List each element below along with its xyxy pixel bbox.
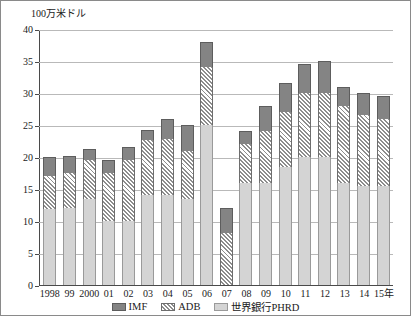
bar-segment-adb	[83, 160, 96, 198]
y-axis-unit-label: 100万米ドル	[31, 5, 86, 20]
chart-legend: IMF ADB 世界銀行PHRD	[1, 299, 410, 314]
bar-segment-imf	[239, 131, 252, 144]
bar-group[interactable]	[161, 30, 174, 285]
y-tick-mark	[35, 190, 39, 191]
bar-segment-世界銀行phrd	[357, 186, 370, 285]
bar-group[interactable]	[83, 30, 96, 285]
bar-group[interactable]	[122, 30, 135, 285]
y-tick-mark	[35, 286, 39, 287]
y-tick-label: 5	[28, 249, 33, 259]
y-tick-mark	[35, 254, 39, 255]
bar-segment-adb	[161, 139, 174, 195]
bar-group[interactable]	[298, 30, 311, 285]
legend-label-imf: IMF	[129, 301, 148, 312]
bar-segment-imf	[141, 130, 154, 140]
bar-segment-世界銀行phrd	[181, 199, 194, 285]
bar-segment-世界銀行phrd	[259, 183, 272, 285]
bar-segment-世界銀行phrd	[318, 157, 331, 285]
bar-segment-世界銀行phrd	[43, 209, 56, 285]
bar-group[interactable]	[102, 30, 115, 285]
bar-group[interactable]	[279, 30, 292, 285]
bar-segment-adb	[279, 112, 292, 166]
bar-segment-adb	[259, 131, 272, 182]
bar-segment-世界銀行phrd	[102, 221, 115, 285]
bar-group[interactable]	[318, 30, 331, 285]
bar-segment-imf	[161, 119, 174, 139]
bar-segment-世界銀行phrd	[200, 125, 213, 285]
bar-segment-adb	[239, 144, 252, 182]
bar-segment-世界銀行phrd	[298, 157, 311, 285]
x-axis-line	[39, 285, 393, 286]
bar-segment-世界銀行phrd	[63, 208, 76, 285]
bar-segment-imf	[337, 87, 350, 106]
y-tick-mark	[35, 94, 39, 95]
bar-segment-世界銀行phrd	[337, 183, 350, 285]
bar-segment-adb	[122, 160, 135, 221]
bar-segment-adb	[102, 173, 115, 221]
plot-area: 0510152025303540	[39, 30, 393, 286]
chart-frame: 100万米ドル 0510152025303540 199899200001020…	[0, 0, 411, 316]
y-tick-label: 15	[23, 185, 33, 195]
bar-segment-imf	[200, 42, 213, 68]
bar-segment-世界銀行phrd	[239, 183, 252, 285]
legend-item-phrd: 世界銀行PHRD	[214, 299, 299, 314]
y-tick-label: 10	[23, 217, 33, 227]
legend-item-adb: ADB	[161, 301, 200, 312]
bar-segment-adb	[141, 140, 154, 196]
bar-segment-adb	[337, 106, 350, 183]
bar-segment-imf	[63, 156, 76, 173]
bar-group[interactable]	[357, 30, 370, 285]
bar-group[interactable]	[200, 30, 213, 285]
legend-item-imf: IMF	[112, 301, 148, 312]
bar-segment-imf	[43, 157, 56, 176]
y-tick-label: 35	[23, 57, 33, 67]
bar-segment-adb	[181, 151, 194, 199]
bar-segment-adb	[377, 119, 390, 186]
bar-series-container	[40, 30, 393, 285]
y-tick-mark	[35, 222, 39, 223]
bar-segment-世界銀行phrd	[141, 195, 154, 285]
y-tick-label: 25	[23, 121, 33, 131]
y-tick-mark	[35, 62, 39, 63]
bar-segment-imf	[377, 96, 390, 118]
bar-segment-imf	[220, 208, 233, 232]
bar-segment-adb	[318, 93, 331, 157]
bar-segment-世界銀行phrd	[377, 186, 390, 285]
bar-segment-imf	[83, 149, 96, 161]
bar-segment-adb	[357, 115, 370, 185]
bar-segment-imf	[102, 160, 115, 173]
bar-segment-adb	[200, 67, 213, 125]
y-tick-label: 40	[23, 25, 33, 35]
bar-segment-imf	[279, 83, 292, 112]
y-tick-label: 30	[23, 89, 33, 99]
bar-segment-imf	[357, 93, 370, 115]
y-tick-label: 0	[28, 281, 33, 291]
bar-group[interactable]	[377, 30, 390, 285]
bar-group[interactable]	[63, 30, 76, 285]
bar-group[interactable]	[337, 30, 350, 285]
bar-group[interactable]	[141, 30, 154, 285]
y-tick-mark	[35, 30, 39, 31]
bar-group[interactable]	[43, 30, 56, 285]
bar-segment-adb	[63, 173, 76, 208]
bar-segment-世界銀行phrd	[279, 167, 292, 285]
legend-label-adb: ADB	[178, 301, 200, 312]
imf-swatch-icon	[112, 303, 126, 311]
y-tick-label: 20	[23, 153, 33, 163]
bar-segment-imf	[181, 125, 194, 151]
bar-segment-imf	[122, 147, 135, 160]
y-tick-mark	[35, 158, 39, 159]
bar-segment-imf	[259, 106, 272, 132]
bar-group[interactable]	[220, 30, 233, 285]
bar-group[interactable]	[259, 30, 272, 285]
bar-segment-世界銀行phrd	[83, 199, 96, 285]
bar-segment-adb	[220, 233, 233, 285]
bar-segment-世界銀行phrd	[122, 221, 135, 285]
phrd-swatch-icon	[214, 303, 228, 311]
bar-segment-imf	[318, 61, 331, 93]
adb-swatch-icon	[161, 303, 175, 311]
y-tick-mark	[35, 126, 39, 127]
bar-group[interactable]	[181, 30, 194, 285]
bar-segment-世界銀行phrd	[161, 195, 174, 285]
bar-group[interactable]	[239, 30, 252, 285]
